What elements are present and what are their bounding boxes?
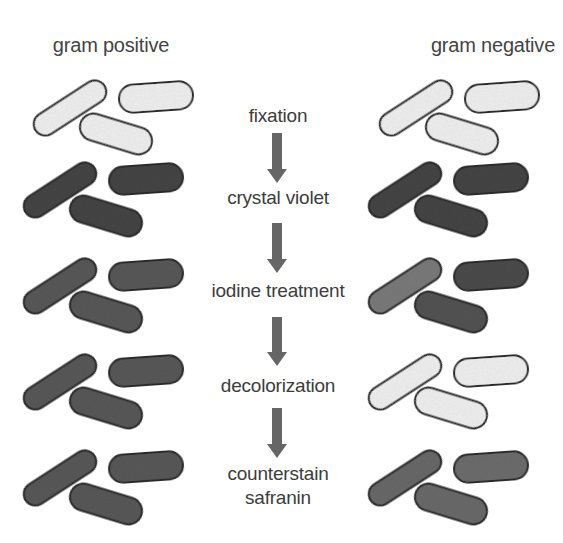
gram-positive-rods-fixation: [29, 76, 194, 158]
bacterium-rod-icon: [77, 110, 156, 157]
bacterium-rod-icon: [108, 354, 184, 387]
gram-negative-rods-fixation: [375, 76, 540, 158]
bacterium-rod-icon: [453, 162, 529, 195]
bacterium-rod-icon: [108, 162, 184, 195]
step-label-iodine-treatment: iodine treatment: [211, 279, 344, 303]
bacterium-rod-icon: [464, 80, 540, 113]
gram-negative-rods-counterstain-safranin: [364, 446, 529, 528]
gram-positive-rods-crystal-violet: [19, 158, 184, 240]
bacterium-rod-icon: [67, 192, 146, 239]
gram-positive-rods-counterstain-safranin: [19, 446, 184, 528]
bacterium-rod-icon: [453, 354, 529, 387]
step-label-fixation: fixation: [249, 104, 308, 128]
bacterium-rod-icon: [412, 288, 491, 335]
bacterium-rod-icon: [108, 450, 184, 483]
bacterium-rod-icon: [423, 110, 502, 157]
gram-positive-rods-iodine-treatment: [19, 254, 184, 336]
down-arrow-icon: [267, 408, 287, 458]
bacterium-rod-icon: [412, 480, 491, 527]
gram-negative-rods-decolorization: [364, 350, 529, 432]
gram-stain-diagram: gram positive gram negative fixation cry…: [0, 0, 563, 543]
step-label-counterstain-safranin: counterstain safranin: [227, 462, 328, 510]
step-label-safranin: safranin: [227, 486, 328, 510]
bacterium-rod-icon: [118, 80, 194, 113]
step-label-decolorization: decolorization: [221, 374, 335, 398]
down-arrow-icon: [267, 317, 287, 366]
bacterium-rod-icon: [412, 384, 491, 431]
step-label-counterstain: counterstain: [227, 462, 328, 486]
gram-positive-rods-decolorization: [19, 350, 184, 432]
down-arrow-icon: [267, 223, 287, 273]
bacterium-rod-icon: [67, 288, 146, 335]
gram-negative-rods-crystal-violet: [364, 158, 529, 240]
down-arrow-icon: [267, 133, 287, 183]
bacterium-rod-icon: [453, 450, 529, 483]
bacterium-rod-icon: [108, 258, 184, 291]
bacterium-rod-icon: [453, 258, 529, 291]
step-label-crystal-violet: crystal violet: [227, 186, 329, 210]
bacterium-rod-icon: [412, 192, 491, 239]
bacterium-rod-icon: [67, 480, 146, 527]
gram-negative-rods-iodine-treatment: [364, 254, 529, 336]
bacterium-rod-icon: [67, 384, 146, 431]
